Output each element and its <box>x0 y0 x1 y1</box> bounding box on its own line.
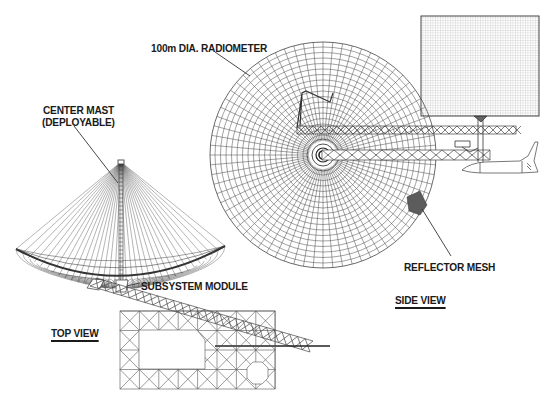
center-mast-label-line2: (DEPLOYABLE) <box>42 116 115 128</box>
side-view-label: SIDE VIEW <box>395 294 446 306</box>
truss-boom-lower <box>322 150 490 160</box>
truss-boom-upper <box>297 126 521 134</box>
center-mast-label-line1: CENTER MAST <box>43 104 114 116</box>
solar-panel-array <box>421 16 539 116</box>
top-view-label: TOP VIEW <box>51 327 99 339</box>
cone-reflector <box>16 162 225 289</box>
subsystem-module-label: SUBSYSTEM MODULE <box>141 280 248 292</box>
rectangular-truss-frame <box>120 311 275 389</box>
reflector-mesh-label: REFLECTOR MESH <box>404 261 495 273</box>
radiometer-label: 100m DIA. RADIOMETER <box>151 42 267 54</box>
